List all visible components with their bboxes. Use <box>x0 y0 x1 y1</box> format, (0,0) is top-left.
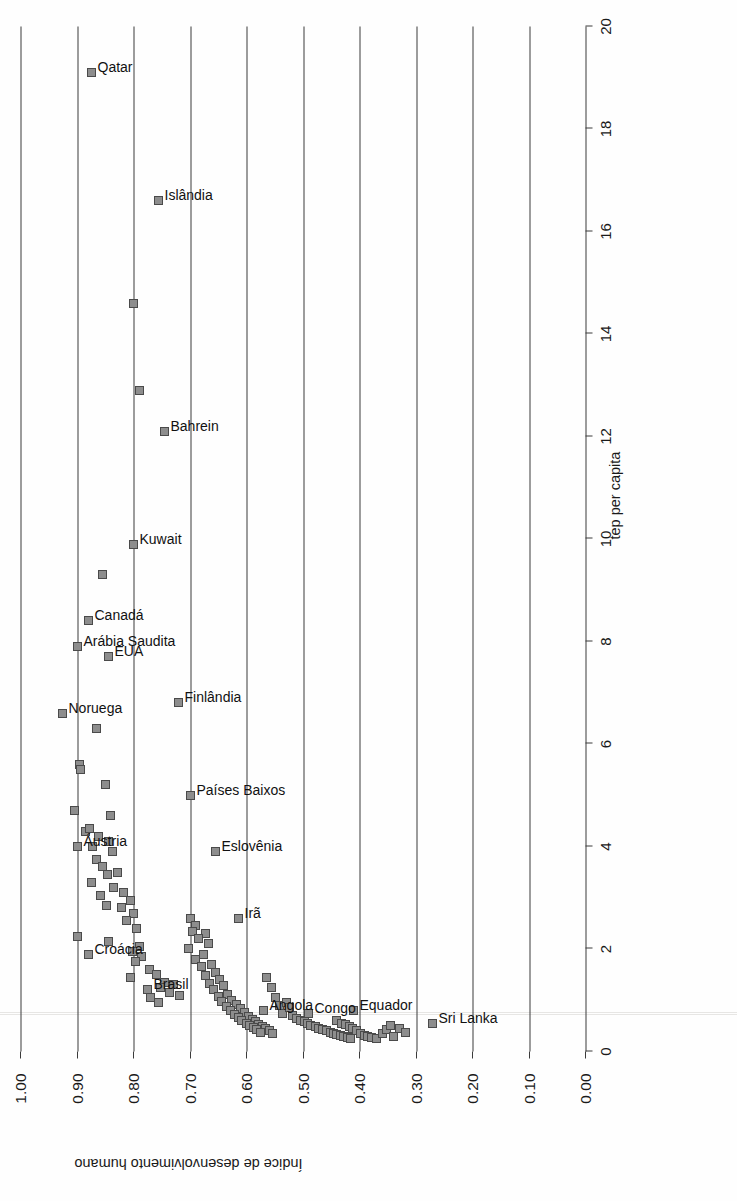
x-tick-label-16: 16 <box>596 223 613 240</box>
x-tick-mark-0 <box>585 1050 592 1051</box>
data-point <box>126 972 135 981</box>
y-axis-title: Índice de desenvolvimento humano <box>74 1155 302 1171</box>
x-tick-mark-12 <box>585 435 592 436</box>
point-label-brasil: Brasil <box>153 976 188 992</box>
x-tick-mark-4 <box>585 845 592 846</box>
plot-area: 02468101214161820 QatarIslândiaBahreinKu… <box>20 26 585 1051</box>
x-tick-mark-10 <box>585 538 592 539</box>
point-label-congo: Congo <box>314 999 355 1015</box>
data-point <box>255 1027 264 1036</box>
data-point-eua <box>103 652 112 661</box>
data-point <box>193 934 202 943</box>
data-point <box>153 998 162 1007</box>
gridline-hdi-0.60 <box>246 26 247 1051</box>
point-label-sri-lanka: Sri Lanka <box>438 1009 497 1025</box>
gridline-hdi-0.40 <box>359 26 360 1051</box>
x-tick-label-2: 2 <box>596 944 613 952</box>
data-point <box>84 824 93 833</box>
scatter-figure: 0.000.100.200.300.400.500.600.700.800.90… <box>0 0 737 1201</box>
data-point <box>101 900 110 909</box>
data-point-arábia-saudita <box>72 642 81 651</box>
data-point-brasil <box>143 985 152 994</box>
x-tick-label-0: 0 <box>596 1047 613 1055</box>
y-tick-mark-0.50 <box>302 1051 303 1058</box>
y-tick-mark-0.70 <box>189 1051 190 1058</box>
y-tick-label-0.80: 0.80 <box>124 1073 142 1103</box>
y-tick-mark-0.90 <box>76 1051 77 1058</box>
y-tick-mark-1.00 <box>20 1051 21 1058</box>
x-tick-mark-20 <box>585 25 592 26</box>
data-point <box>131 924 140 933</box>
x-tick-label-8: 8 <box>596 637 613 645</box>
point-label-qatar: Qatar <box>97 58 132 74</box>
data-point <box>196 962 205 971</box>
y-tick-mark-0.80 <box>133 1051 134 1058</box>
y-tick-label-0.10: 0.10 <box>520 1073 538 1103</box>
gridline-hdi-0.70 <box>190 26 191 1051</box>
y-tick-mark-0.40 <box>359 1051 360 1058</box>
gridline-hdi-0.20 <box>472 26 473 1051</box>
data-point <box>116 903 125 912</box>
point-label-noruega: Noruega <box>68 699 122 715</box>
data-point <box>266 982 275 991</box>
y-tick-label-0.50: 0.50 <box>294 1073 312 1103</box>
point-label-áustria: Áustria <box>83 832 127 848</box>
x-tick-mark-16 <box>585 230 592 231</box>
data-point-bahrein <box>160 426 169 435</box>
data-point <box>219 981 228 990</box>
data-point-canadá <box>83 616 92 625</box>
y-tick-label-0.90: 0.90 <box>68 1073 86 1103</box>
gridline-hdi-0.30 <box>416 26 417 1051</box>
data-point-países-baixos <box>185 790 194 799</box>
y-tick-label-0.60: 0.60 <box>237 1073 255 1103</box>
gridline-hdi-0.10 <box>529 26 530 1051</box>
data-point <box>201 971 210 980</box>
data-point-eslovênia <box>210 847 219 856</box>
point-label-irã: Irã <box>244 904 260 920</box>
x-tick-mark-2 <box>585 948 592 949</box>
data-point <box>129 298 138 307</box>
x-tick-label-6: 6 <box>596 739 613 747</box>
y-tick-mark-0.60 <box>246 1051 247 1058</box>
data-point <box>134 385 143 394</box>
y-tick-mark-0.30 <box>415 1051 416 1058</box>
point-label-finlândia: Finlândia <box>184 689 241 705</box>
gridline-hdi-1.00 <box>20 26 21 1051</box>
y-tick-mark-0.20 <box>472 1051 473 1058</box>
data-point <box>184 944 193 953</box>
data-point <box>267 1028 276 1037</box>
point-label-eslovênia: Eslovênia <box>221 837 282 853</box>
x-axis-title: tep per capita <box>606 451 622 539</box>
y-tick-mark-0.00 <box>585 1051 586 1058</box>
data-point <box>386 1021 395 1030</box>
point-label-angola: Angola <box>269 996 313 1012</box>
x-tick-mark-6 <box>585 743 592 744</box>
x-tick-label-20: 20 <box>596 18 613 35</box>
data-point-angola <box>258 1006 267 1015</box>
data-point <box>69 806 78 815</box>
x-tick-label-12: 12 <box>596 428 613 445</box>
x-tick-label-4: 4 <box>596 842 613 850</box>
data-point <box>97 570 106 579</box>
data-point <box>92 724 101 733</box>
data-point <box>86 877 95 886</box>
x-tick-label-18: 18 <box>596 120 613 137</box>
data-point <box>203 939 212 948</box>
data-point <box>100 780 109 789</box>
data-point-áustria <box>72 842 81 851</box>
data-point-islândia <box>154 196 163 205</box>
data-point <box>125 895 134 904</box>
data-point <box>401 1027 410 1036</box>
data-point-kuwait <box>129 539 138 548</box>
y-tick-label-0.30: 0.30 <box>407 1073 425 1103</box>
data-point-finlândia <box>174 698 183 707</box>
chart-page: 0.000.100.200.300.400.500.600.700.800.90… <box>0 0 737 1201</box>
point-label-bahrein: Bahrein <box>170 417 218 433</box>
data-point-croácia <box>83 949 92 958</box>
data-point <box>261 972 270 981</box>
data-point <box>72 931 81 940</box>
rotated-figure-wrapper: 0.000.100.200.300.400.500.600.700.800.90… <box>0 0 737 1201</box>
point-label-kuwait: Kuwait <box>139 530 181 546</box>
data-point <box>108 883 117 892</box>
point-label-croácia: Croácia <box>94 940 142 956</box>
